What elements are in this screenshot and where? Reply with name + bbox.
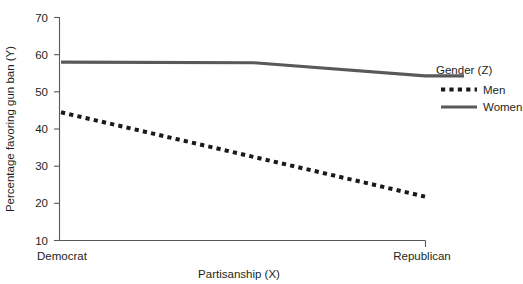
x-category-republican: Republican [393, 250, 451, 262]
chart-figure: 70 60 50 40 30 20 10 Percentage favoring… [0, 0, 523, 284]
x-axis-title: Partisanship (X) [198, 268, 280, 280]
y-tick-label-10: 10 [35, 235, 48, 247]
y-axis-ticks [54, 18, 60, 241]
legend-title: Gender (Z) [436, 64, 492, 76]
y-tick-label-40: 40 [35, 123, 48, 135]
x-category-democrat: Democrat [37, 250, 88, 262]
y-tick-label-70: 70 [35, 12, 48, 24]
y-tick-label-30: 30 [35, 160, 48, 172]
y-tick-label-20: 20 [35, 197, 48, 209]
y-tick-label-50: 50 [35, 86, 48, 98]
y-tick-label-60: 60 [35, 49, 48, 61]
legend-label-women: Women [483, 101, 522, 113]
line-chart-svg: 70 60 50 40 30 20 10 Percentage favoring… [0, 0, 523, 284]
series-line-women [61, 62, 464, 76]
series-line-men [61, 112, 425, 196]
legend-label-men: Men [483, 84, 505, 96]
legend: Gender (Z) Men Women [436, 64, 522, 113]
y-axis-title: Percentage favoring gun ban (Y) [4, 46, 16, 212]
